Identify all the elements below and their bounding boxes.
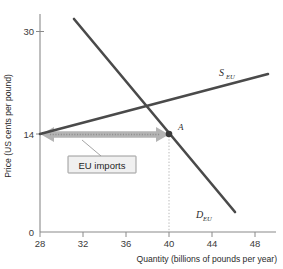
point-a-label: A (177, 122, 184, 132)
x-tick-labels: 28 32 36 40 44 48 (35, 238, 261, 249)
demand-curve-label: D EU (195, 209, 213, 222)
y-tick-label-0: 0 (29, 227, 34, 238)
point-a-marker (166, 131, 173, 138)
y-axis-title: Price (US cents per pound) (3, 74, 13, 178)
eu-imports-callout: EU imports (68, 140, 136, 173)
x-axis-title: Quantity (billions of pounds per year) (137, 254, 278, 264)
x-tick-label-44: 44 (207, 238, 218, 249)
x-tick-label-36: 36 (121, 238, 132, 249)
x-tick-label-28: 28 (35, 238, 46, 249)
supply-curve-label: S EU (219, 67, 236, 80)
demand-label-subscript: EU (202, 215, 213, 222)
y-tick-label-30: 30 (23, 26, 34, 37)
supply-label-subscript: EU (225, 73, 236, 80)
supply-demand-chart: 30 14 0 28 32 36 40 44 48 Price (US cent… (0, 0, 283, 269)
y-tick-label-14: 14 (23, 129, 34, 140)
demand-curve-d-eu (74, 19, 235, 212)
chart-canvas: 30 14 0 28 32 36 40 44 48 Price (US cent… (0, 0, 283, 269)
x-tick-label-40: 40 (164, 238, 175, 249)
y-tick-labels: 30 14 0 (23, 26, 34, 238)
x-tick-label-48: 48 (250, 238, 261, 249)
callout-label: EU imports (79, 160, 126, 171)
callout-leader-line (82, 140, 101, 156)
supply-curve-s-eu (40, 74, 268, 134)
x-tick-label-32: 32 (78, 238, 89, 249)
supply-label-letter: S (219, 67, 224, 78)
